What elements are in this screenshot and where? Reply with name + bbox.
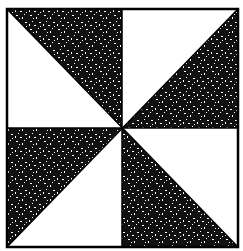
pinwheel-quilt-block <box>0 0 243 251</box>
seam-lines <box>7 9 238 247</box>
